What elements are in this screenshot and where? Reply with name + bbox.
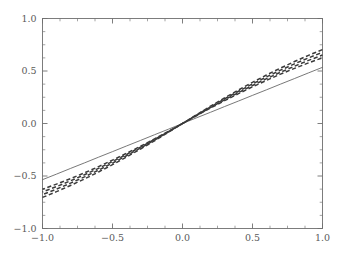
line-chart: −1.0−0.50.00.51.0−1.0−0.50.00.51.0 — [0, 0, 341, 262]
y-tick-label: −1.0 — [13, 223, 36, 234]
figure-canvas: −1.0−0.50.00.51.0−1.0−0.50.00.51.0 — [0, 0, 341, 262]
y-tick-label: 0.0 — [21, 118, 36, 129]
y-tick-label: 0.5 — [21, 65, 36, 76]
y-tick-label: 1.0 — [21, 13, 36, 24]
x-tick-label: 0.0 — [175, 232, 190, 243]
y-tick-label: −0.5 — [13, 170, 36, 181]
x-tick-label: −0.5 — [101, 232, 124, 243]
x-tick-label: 1.0 — [315, 232, 330, 243]
x-tick-label: 0.5 — [245, 232, 260, 243]
